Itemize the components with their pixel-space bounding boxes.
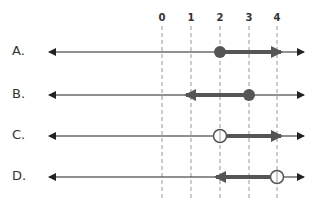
closed-dot-icon xyxy=(214,46,226,58)
number-line-c xyxy=(49,130,304,143)
number-lines-svg xyxy=(0,0,316,203)
number-line-d xyxy=(49,171,304,184)
number-line-b xyxy=(49,89,304,101)
number-line-a xyxy=(49,46,304,58)
closed-dot-icon xyxy=(243,89,255,101)
